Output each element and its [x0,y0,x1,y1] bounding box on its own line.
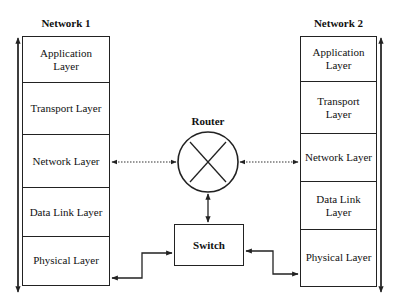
network1-stack: Application Layer Transport Layer Networ… [22,36,110,286]
n1-data-link-layer: Data Link Layer [23,187,109,236]
network2-title: Network 2 [300,17,377,29]
n1-network-layer: Network Layer [23,134,109,187]
n1-transport-layer: Transport Layer [23,82,109,134]
n2-network-layer: Network Layer [301,133,376,181]
n1-application-layer: Application Layer [23,37,109,82]
n1-physical-layer: Physical Layer [23,236,109,284]
router-label: Router [178,115,238,127]
n2-data-link-layer: Data Link Layer [301,181,376,229]
switch-box: Switch [174,224,244,266]
switch-label: Switch [193,239,225,251]
router-icon [178,132,238,192]
n2-physical-layer: Physical Layer [301,229,376,285]
network2-stack: Application Layer Transport Layer Networ… [300,36,377,287]
n2-transport-layer: Transport Layer [301,81,376,133]
switch-n2-link [246,251,298,274]
n2-application-layer: Application Layer [301,37,376,81]
n1-switch-link [112,253,172,278]
network1-title: Network 1 [22,17,110,29]
